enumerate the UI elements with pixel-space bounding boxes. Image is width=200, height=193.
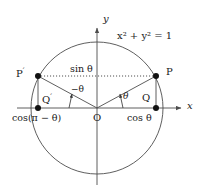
point-qprime-letter: Q xyxy=(42,94,50,105)
angle-minus-theta-arrow xyxy=(69,94,72,108)
unit-circle-figure: y x x² + y² = 1 P P′ Q Q′ O sin θ cos θ … xyxy=(0,0,200,193)
angle-theta-label: θ xyxy=(123,92,128,101)
point-p-dot xyxy=(153,73,159,79)
point-pprime-letter: P xyxy=(16,68,23,79)
point-qprime-mark: ′ xyxy=(50,92,52,101)
point-qprime-dot xyxy=(35,105,41,111)
cos-pi-minus-theta-label: cos(π − θ) xyxy=(12,113,61,123)
point-p-label: P xyxy=(166,67,173,77)
angle-minus-theta-label: −θ xyxy=(71,85,84,94)
origin-label: O xyxy=(93,113,101,123)
point-pprime-mark: ′ xyxy=(23,66,25,75)
sin-theta-label: sin θ xyxy=(70,64,93,74)
x-axis-label: x xyxy=(187,101,193,111)
circle-equation-label: x² + y² = 1 xyxy=(117,31,172,41)
point-pprime-label: P′ xyxy=(16,67,24,79)
cos-theta-label: cos θ xyxy=(127,113,152,123)
point-q-label: Q xyxy=(142,93,150,103)
point-q-dot xyxy=(153,105,159,111)
point-qprime-label: Q′ xyxy=(42,93,52,105)
y-axis-label: y xyxy=(103,14,109,24)
figure-canvas xyxy=(0,0,200,193)
point-pprime-dot xyxy=(35,73,41,79)
